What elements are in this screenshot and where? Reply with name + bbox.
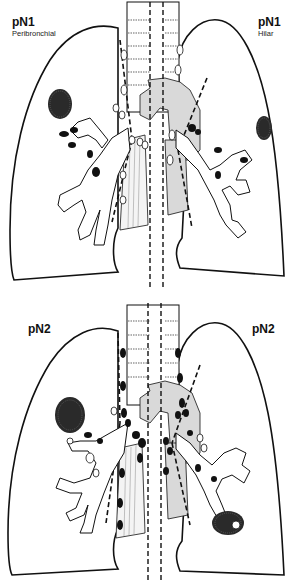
label-left-lung-pn2: pN2 bbox=[252, 323, 275, 336]
stage-label: pN1 bbox=[258, 16, 281, 29]
stage-label: pN1 bbox=[12, 16, 56, 29]
stage-subtitle: Hilar bbox=[258, 29, 281, 39]
label-right-lung-pn1: pN1 Peribronchial bbox=[12, 16, 56, 39]
tumor-right-lung bbox=[55, 397, 85, 433]
stage-subtitle: Peribronchial bbox=[12, 29, 56, 39]
panel-pn2: pN2 pN2 bbox=[0, 293, 293, 586]
panel-pn1: pN1 Peribronchial pN1 Hilar bbox=[0, 0, 293, 293]
stage-label: pN2 bbox=[252, 323, 275, 336]
tumor-left-lung bbox=[256, 116, 272, 140]
label-right-lung-pn2: pN2 bbox=[28, 323, 51, 336]
stage-label: pN2 bbox=[28, 323, 51, 336]
tumor-right-lung bbox=[48, 89, 72, 119]
lung-diagram-pn1 bbox=[0, 0, 293, 293]
label-left-lung-pn1: pN1 Hilar bbox=[258, 16, 281, 39]
lung-diagram-pn2 bbox=[0, 293, 293, 586]
